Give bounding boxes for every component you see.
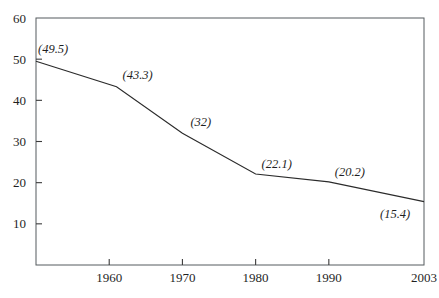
line-chart: 102030405060 19601970198019902003 (49.5)… <box>0 0 439 298</box>
x-axis-tick-label: 1990 <box>316 270 342 285</box>
x-axis-tick-label: 1970 <box>169 270 195 285</box>
x-axis-tick-label: 1960 <box>96 270 122 285</box>
chart-canvas: 102030405060 19601970198019902003 (49.5)… <box>0 0 439 298</box>
data-point-label: (22.1) <box>262 157 292 171</box>
data-point-label: (32) <box>190 115 211 129</box>
x-axis-tick-label: 1980 <box>243 270 269 285</box>
data-point-label: (43.3) <box>123 68 153 82</box>
x-axis-tick-label: 2003 <box>411 270 437 285</box>
y-axis-tick-label: 30 <box>13 134 26 149</box>
y-axis-tick-label: 20 <box>13 175 26 190</box>
y-axis-tick-label: 60 <box>13 11 26 26</box>
data-point-label: (20.2) <box>335 165 365 179</box>
y-axis-tick-label: 50 <box>13 52 26 67</box>
y-axis-tick-label: 40 <box>13 93 26 108</box>
y-axis-tick-label: 10 <box>13 216 26 231</box>
data-point-label: (15.4) <box>380 207 410 221</box>
data-point-label: (49.5) <box>38 42 68 56</box>
